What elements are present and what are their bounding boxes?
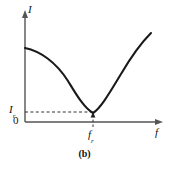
y-axis-label: I	[28, 4, 32, 15]
current-frequency-curve	[25, 33, 151, 113]
figure-container: I Ir 0 fr f (b)	[0, 0, 169, 169]
resonance-curve-plot	[0, 0, 169, 169]
origin-label: 0	[13, 115, 19, 126]
fr-tick-label: fr	[88, 129, 94, 143]
fr-subscript: r	[91, 137, 94, 145]
figure-caption: (b)	[0, 149, 169, 159]
x-axis-arrow-icon	[155, 119, 163, 125]
x-axis-label: f	[155, 127, 158, 138]
